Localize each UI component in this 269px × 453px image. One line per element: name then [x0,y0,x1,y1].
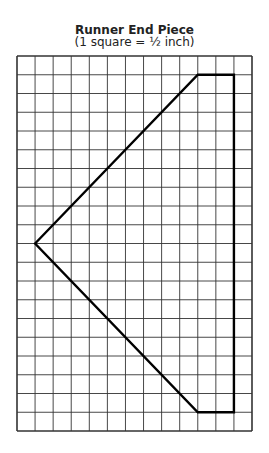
pattern-grid [0,0,269,453]
